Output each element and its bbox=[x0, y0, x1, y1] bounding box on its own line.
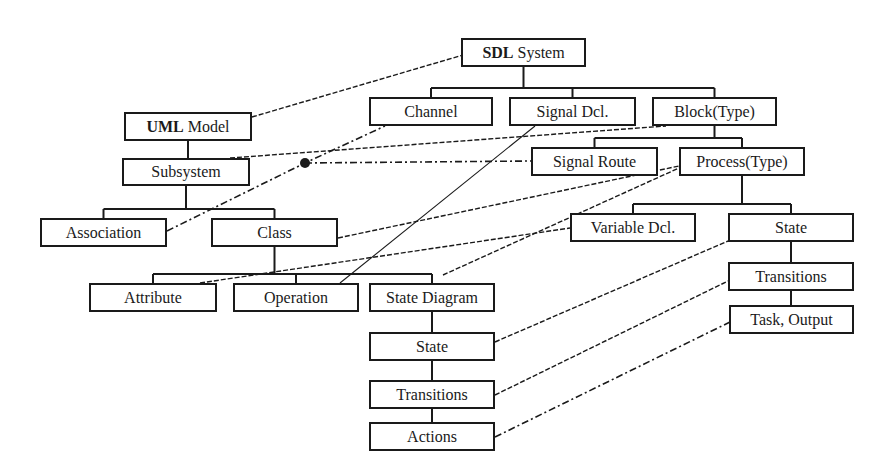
class-box: Class bbox=[211, 218, 338, 247]
uml-transitions-box: Transitions bbox=[369, 380, 495, 409]
mapping-line-operation-to-signal_dcl bbox=[340, 126, 535, 283]
sdl-transitions-box: Transitions bbox=[728, 262, 854, 291]
uml-model-box: UMLModel bbox=[124, 112, 252, 141]
mapping-line-uml_state-to-sdl_state bbox=[495, 241, 728, 342]
operation-box: Operation bbox=[233, 283, 359, 312]
mapping-line-actions-to-task_output bbox=[495, 322, 730, 437]
task-output-box: Task, Output bbox=[729, 305, 854, 334]
mapping-line-uml_transitions-to-sdl_transitions bbox=[495, 281, 728, 395]
channel-box: Channel bbox=[369, 97, 493, 126]
sdl-system-box: SDLSystem bbox=[461, 38, 586, 67]
sdl-state-box: State bbox=[728, 213, 854, 242]
process-type-box: Process(Type) bbox=[679, 147, 805, 176]
variable-dcl-box: Variable Dcl. bbox=[570, 213, 696, 242]
subsystem-box: Subsystem bbox=[122, 158, 250, 186]
uml-state-box: State bbox=[369, 332, 495, 361]
attribute-box: Attribute bbox=[89, 283, 217, 312]
association-box: Association bbox=[40, 218, 167, 247]
block-type-box: Block(Type) bbox=[652, 97, 777, 126]
signal-route-box: Signal Route bbox=[531, 147, 658, 176]
uml-sdl-mapping-diagram: SDLSystem UMLModel Channel Signal Dcl. B… bbox=[0, 0, 890, 476]
state-diagram-box: State Diagram bbox=[369, 283, 495, 312]
signal-dcl-box: Signal Dcl. bbox=[509, 97, 636, 126]
junction-dot bbox=[300, 158, 310, 168]
mapping-line-association-to-signal_route bbox=[305, 161, 531, 163]
actions-box: Actions bbox=[369, 422, 495, 451]
